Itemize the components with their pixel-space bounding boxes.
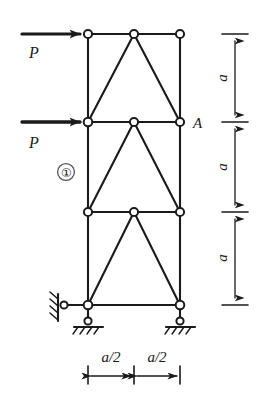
joint-second-right-A <box>176 118 184 126</box>
joint-label-A: A <box>192 115 203 131</box>
dimension-horizontal-ticks <box>88 366 180 384</box>
joint-left-base-pin <box>84 317 91 324</box>
dimension-a-half-right-label: a/2 <box>147 349 167 365</box>
joint-third-right <box>176 208 184 216</box>
joint-bottom-left <box>84 301 93 310</box>
joints <box>60 30 184 325</box>
load-label-top: P <box>28 44 39 61</box>
dimension-a-top-label: a <box>214 74 230 82</box>
panel-top-diagonals <box>88 34 180 122</box>
dimension-a-middle-label: a <box>214 163 230 171</box>
joint-top-right <box>176 30 184 38</box>
dimension-a-bottom-label: a <box>214 254 230 262</box>
truss-canvas: ① P P A a a a a/2 a/2 <box>0 0 263 409</box>
dimension-a-half-left-label: a/2 <box>101 349 121 365</box>
member-1-label: ① <box>61 166 72 180</box>
joint-top-mid <box>130 30 138 38</box>
member-1-marker: ① <box>58 164 75 181</box>
joint-left-link-pin <box>60 301 67 308</box>
joint-third-left <box>84 208 92 216</box>
joint-bottom-right <box>176 301 185 310</box>
joint-top-left <box>84 30 92 38</box>
load-label-middle: P <box>28 134 39 151</box>
panel-bottom-diagonals <box>88 212 180 305</box>
joint-third-mid <box>130 208 138 216</box>
joint-second-mid <box>130 118 138 126</box>
support-left-link <box>50 292 88 321</box>
joint-second-left <box>84 118 93 127</box>
truss-figure: ① P P A a a a a/2 a/2 <box>0 0 263 409</box>
joint-right-base-pin <box>176 317 183 324</box>
panel-middle-diagonals <box>88 122 180 212</box>
